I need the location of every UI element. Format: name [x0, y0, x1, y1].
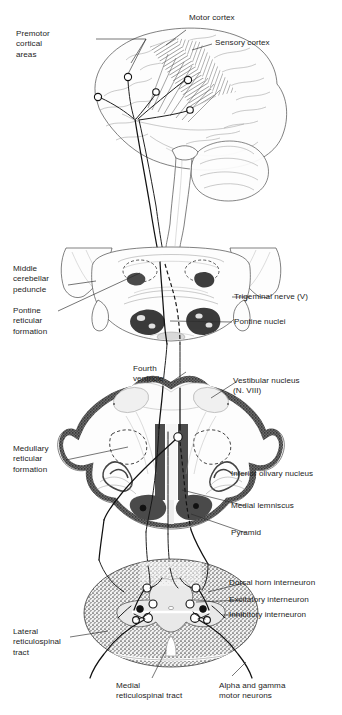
- label-pontine-reticular-formation: Pontine reticular formation: [13, 306, 47, 337]
- label-motor-cortex: Motor cortex: [189, 13, 235, 23]
- label-lateral-reticulospinal-tract: Lateral reticulospinal tract: [13, 627, 61, 658]
- label-trigeminal-nerve: Trigeminal nerve (V): [234, 292, 308, 302]
- label-medial-lemniscus: Medial lemniscus: [231, 501, 294, 511]
- label-alpha-and-gamma-motor-neurons: Alpha and gamma motor neurons: [219, 681, 285, 702]
- label-premotor-cortical-areas: Premotor cortical areas: [16, 29, 50, 60]
- label-dorsal-horn-interneuron: Dorsal horn interneuron: [229, 578, 315, 588]
- label-middle-cerebellar-peduncle: Middle cerebellar peduncle: [13, 264, 49, 295]
- label-pontine-nuclei: Pontine nuclei: [234, 317, 286, 327]
- cerebellum: [166, 141, 269, 248]
- label-inferior-olivary-nucleus: Inferior olivary nucleus: [231, 469, 313, 479]
- label-sensory-cortex: Sensory cortex: [215, 38, 270, 48]
- label-vestibular-nucleus: Vestibular nucleus (N. VIII): [233, 376, 300, 397]
- anatomy-svg: [0, 0, 342, 715]
- label-medullary-reticular-formation: Medullary reticular formation: [13, 444, 49, 475]
- label-excitatory-interneuron: Excitatory interneuron: [229, 595, 309, 605]
- anatomy-figure: [0, 0, 342, 715]
- label-pyramid: Pyramid: [231, 528, 261, 538]
- label-inhibitory-interneuron: Inhibitory interneuron: [229, 610, 306, 620]
- cerebrum-illustration: [94, 28, 286, 264]
- label-fourth-ventricle: Fourth ventricle: [133, 364, 164, 385]
- label-medial-reticulospinal-tract: Medial reticulospinal tract: [116, 681, 182, 702]
